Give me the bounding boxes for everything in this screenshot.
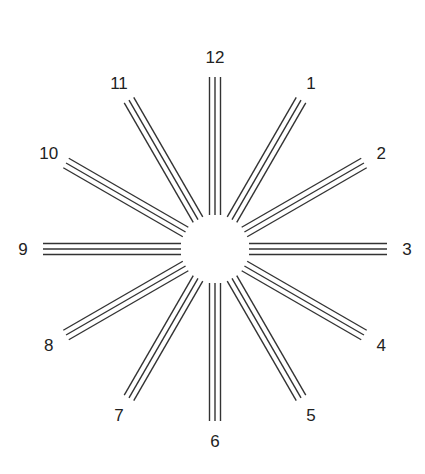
spoke-line [134,281,203,401]
hour-label-11: 11 [110,74,128,93]
spoke-line [129,100,198,220]
astigmatism-clock-dial: 121234567891011 [0,0,425,474]
spoke-line [244,163,364,232]
hour-label-9: 9 [18,240,27,259]
spoke-line [237,276,306,396]
spoke-6 [210,283,221,421]
spoke-line [227,281,296,401]
spoke-line [237,103,306,223]
spoke-line [129,278,198,398]
spoke-9 [43,244,181,255]
spoke-line [242,271,362,340]
spoke-line [69,158,189,227]
spoke-line [247,261,367,330]
spoke-line [232,278,301,398]
hour-label-12: 12 [206,48,225,67]
spoke-12 [210,77,221,215]
hour-label-3: 3 [402,240,411,259]
hour-label-5: 5 [306,406,315,425]
spoke-line [232,100,301,220]
spoke-line [124,276,193,396]
spoke-line [69,271,189,340]
spoke-line [242,158,362,227]
spoke-3 [249,244,387,255]
hour-label-8: 8 [44,336,53,355]
hour-label-4: 4 [377,336,386,355]
hour-label-6: 6 [210,432,219,451]
spoke-line [134,97,203,217]
spokes-group [43,77,387,421]
spoke-line [66,266,186,335]
spoke-line [66,163,186,232]
hour-label-7: 7 [114,406,123,425]
spoke-line [227,97,296,217]
spoke-line [244,266,364,335]
spoke-line [124,103,193,223]
spoke-line [63,261,183,330]
hour-label-1: 1 [306,74,315,93]
hour-label-2: 2 [377,144,386,163]
hour-label-10: 10 [39,144,58,163]
spoke-line [63,168,183,237]
spoke-line [247,168,367,237]
